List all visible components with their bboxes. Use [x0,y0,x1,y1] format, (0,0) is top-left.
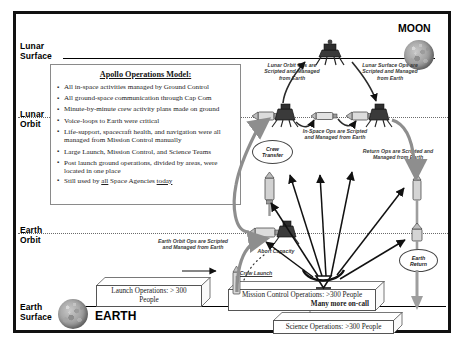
mission-control-line1: Mission Control Operations: >300 People [242,291,362,300]
box-front-face: Mission Control Operations: >300 People … [228,289,376,311]
bullet-underline-today: today [157,177,173,185]
box-side-face [375,281,385,311]
bullet-mid: Space Agencies [108,177,156,185]
ops-model-bullet: All ground-space communication through C… [57,94,235,103]
note-in-space-ops: In-Space Ops are Scripted and Managed fr… [300,128,370,141]
ops-model-bullet: Minute-by-minute crew activity plans mad… [57,105,235,114]
diagram-canvas: Lunar Surface Lunar Orbit Earth Orbit Ea… [0,0,462,347]
earth-return-oval: Earth Return [399,249,438,272]
ops-model-title: Apollo Operations Model: [51,70,240,79]
box-front-face: Science Operations: >300 People [273,320,394,334]
band-label-earth-orbit: Earth Orbit [20,226,42,245]
box-side-face [393,312,403,334]
note-abort-capacity: Abort Capacity [251,248,301,254]
oval-line2: Transfer [262,152,283,158]
band-label-line2: Orbit [20,236,42,246]
band-label-lunar-orbit: Lunar Orbit [20,110,44,129]
band-label-line2: Surface [20,313,52,323]
lunar-surface-line [63,58,435,59]
note-return-ops: Return Ops are Scripted and Managed from… [358,148,438,161]
box-side-face [201,277,211,307]
crew-transfer-label: Crew Transfer [262,146,283,158]
band-label-earth-surface: Earth Surface [20,303,52,322]
oval-line2: Return [410,261,427,267]
ops-model-bullet: Life-support, spacecraft health, and nav… [57,128,235,145]
band-label-line2: Orbit [20,120,44,130]
crew-transfer-oval: Crew Transfer [252,140,293,164]
science-ops-line1: Science Operations: >300 People [286,323,382,332]
ops-model-bullet: All in-space activities managed by Groun… [57,83,235,92]
earth-return-label: Earth Return [410,255,427,267]
note-earth-orbit-ops: Earth Orbit Ops are Scripted and Managed… [157,238,229,251]
ops-model-bullet-list: All in-space activities managed by Groun… [51,83,240,186]
moon-title: MOON [398,22,431,34]
box-front-face: Launch Operations: > 300 People [96,285,202,307]
mission-control-operations-box: Mission Control Operations: >300 People … [228,281,385,311]
launch-ops-line1: Launch Operations: > 300 [111,287,186,296]
ops-model-bullet: Voice-loops to Earth were critical [57,117,235,126]
bullet-pre: Still used by [64,177,101,185]
ops-model-bullet-last: Still used by all Space Agencies today [57,177,235,186]
band-label-lunar-surface: Lunar Surface [20,42,52,61]
earth-orbit-line [18,233,448,234]
science-operations-box: Science Operations: >300 People [273,312,403,334]
ops-model-bullet: Large Launch, Mission Control, and Scien… [57,148,235,157]
note-lunar-orbit-ops: Lunar Orbit Ops are Scripted and Managed… [258,62,326,81]
note-lunar-surface-ops: Lunar Surface Ops are Scripted and Manag… [356,62,424,81]
launch-operations-box: Launch Operations: > 300 People [96,277,211,307]
note-crew-launch: Crew Launch [235,270,277,276]
earth-image [58,299,88,329]
earth-title: EARTH [95,309,136,323]
ops-model-bullet: Post launch ground operations, divided b… [57,159,235,176]
launch-ops-line2: People [139,296,159,305]
apollo-operations-model-box: Apollo Operations Model: All in-space ac… [50,64,241,205]
band-label-line2: Surface [20,52,52,62]
mission-control-line2: Many more on-call [311,300,375,309]
